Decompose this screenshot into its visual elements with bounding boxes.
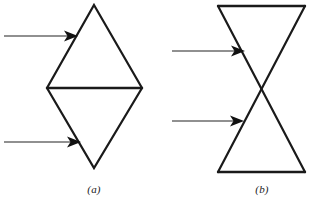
panel-b-caption: (b): [242, 183, 282, 195]
rhombus-outline: [47, 5, 142, 168]
panel-a-caption: (a): [74, 183, 114, 195]
figure-svg: [0, 0, 309, 203]
panel-a-shape: [47, 5, 142, 168]
panel-a-lower-arrow: [4, 137, 81, 148]
panel-b-upper-arrow: [172, 46, 245, 57]
panel-b-lower-arrow: [172, 116, 244, 127]
panel-a-upper-arrow: [4, 31, 78, 42]
figure-container: (a) (b): [0, 0, 309, 203]
panel-b-shape: [218, 6, 305, 172]
